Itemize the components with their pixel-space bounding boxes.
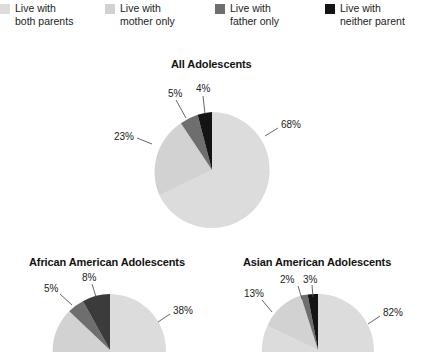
legend-item-both-parents: Live with both parents: [0, 2, 73, 28]
pie-chart-asian-american-adolescents: 82% 13% 2% 3%: [218, 272, 422, 352]
pie-label-both-parents: 68%: [281, 119, 301, 130]
pie-chart-all-adolescents: 68% 23% 5% 4%: [110, 78, 320, 228]
pie-slice-both-parents: [110, 294, 166, 352]
pie-label-mother-only: 13%: [244, 288, 264, 299]
legend-item-father-only: Live with father only: [215, 2, 279, 28]
pie-label-father-only: 2%: [280, 274, 295, 285]
leader-line-both-parents: [368, 316, 380, 324]
legend-item-label: Live with father only: [230, 2, 279, 28]
pie-slices: [262, 294, 374, 352]
leader-line-both-parents: [265, 128, 278, 136]
pie-label-neither-parent: 3%: [303, 274, 318, 285]
pie-label-neither-parent: 4%: [196, 83, 211, 94]
pie-label-father-only: 5%: [44, 283, 59, 294]
leader-line-father-only: [176, 100, 186, 118]
pie-label-neither-parent: 8%: [82, 272, 97, 283]
square-swatch-icon: [325, 4, 335, 14]
legend-item-label: Live with mother only: [120, 2, 175, 28]
pie-label-both-parents: 38%: [173, 305, 193, 316]
legend: Live with both parents Live with mother …: [0, 0, 424, 46]
chart-title-all-adolescents: All Adolescents: [171, 58, 252, 70]
pie-chart-african-american-adolescents: 38% 5% 8%: [10, 272, 214, 352]
pie-slices: [155, 112, 270, 228]
square-swatch-icon: [105, 4, 115, 14]
leader-line-father-only: [60, 294, 72, 305]
legend-item-label: Live with both parents: [15, 2, 73, 28]
chart-title-asian-american-adolescents: Asian American Adolescents: [243, 256, 391, 268]
leader-line-mother-only: [137, 138, 152, 144]
legend-item-mother-only: Live with mother only: [105, 2, 175, 28]
chart-title-african-american-adolescents: African American Adolescents: [29, 256, 185, 268]
square-swatch-icon: [215, 4, 225, 14]
pie-label-both-parents: 82%: [383, 307, 403, 318]
pie-label-father-only: 5%: [168, 88, 183, 99]
leader-line-neither-parent: [92, 284, 96, 297]
square-swatch-icon: [0, 4, 10, 14]
leader-line-neither-parent: [203, 96, 205, 114]
leader-line-both-parents: [158, 314, 170, 322]
legend-item-neither-parent: Live with neither parent: [325, 2, 405, 28]
pie-label-mother-only: 23%: [114, 131, 134, 142]
legend-item-label: Live with neither parent: [340, 2, 405, 28]
leader-line-mother-only: [262, 300, 272, 312]
